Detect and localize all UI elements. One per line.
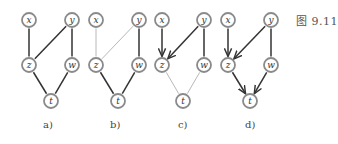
panel-label-d: d) [245,119,255,130]
svg-text:z: z [26,60,32,70]
edge-w-t [187,72,199,93]
svg-text:z: z [159,60,165,70]
node-z: z [22,58,36,72]
node-x: x [221,13,235,27]
svg-text:x: x [26,15,31,25]
svg-text:y: y [68,15,75,25]
panel-label-c: c) [178,119,188,130]
panel-b: xyzwt [89,13,146,108]
panel-d: xyzwt [221,13,278,108]
svg-text:x: x [225,15,230,25]
edge-z-t [33,72,46,93]
svg-text:z: z [93,60,99,70]
svg-text:z: z [225,60,231,70]
svg-text:x: x [159,15,164,25]
svg-text:w: w [68,60,76,70]
node-t: t [44,94,58,108]
node-w: w [197,58,211,72]
node-x: x [89,13,103,27]
node-w: w [65,58,79,72]
node-w: w [264,58,278,72]
figure-caption: 图 9.11 [296,12,338,28]
svg-text:y: y [200,15,207,25]
edge-y-z [168,26,198,59]
edge-z-t [100,72,113,93]
edge-z-t [232,72,245,93]
svg-text:w: w [135,60,143,70]
node-z: z [155,58,169,72]
svg-text:t: t [49,96,53,106]
node-z: z [89,58,103,72]
panel-c: xyzwt [155,13,211,108]
edge-z-t [166,72,178,93]
node-t: t [176,94,190,108]
panel-label-a: a) [43,119,53,130]
svg-text:t: t [181,96,185,106]
edge-w-t [254,72,266,93]
node-t: t [243,94,257,108]
panel-label-b: b) [110,119,120,130]
edge-w-t [55,72,67,93]
node-t: t [111,94,125,108]
svg-text:w: w [200,60,208,70]
svg-text:t: t [116,96,120,106]
node-x: x [155,13,169,27]
svg-text:t: t [248,96,252,106]
node-y: y [132,13,146,27]
node-y: y [264,13,278,27]
node-w: w [132,58,146,72]
node-x: x [22,13,36,27]
edge-y-z [102,26,133,59]
svg-text:x: x [93,15,98,25]
svg-text:y: y [135,15,142,25]
node-z: z [221,58,235,72]
node-y: y [65,13,79,27]
node-y: y [197,13,211,27]
edge-y-z [234,26,265,59]
svg-text:y: y [267,15,274,25]
edge-w-t [122,72,134,93]
edge-y-z [35,26,66,59]
panel-a: xyzwt [22,13,79,108]
svg-text:w: w [267,60,275,70]
